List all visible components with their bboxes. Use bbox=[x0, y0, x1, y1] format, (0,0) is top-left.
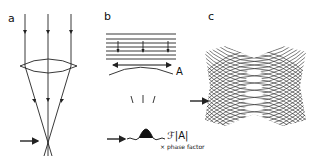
wavefront-arc bbox=[200, 123, 310, 149]
wavefront-arc bbox=[200, 32, 310, 58]
converging-rays bbox=[25, 66, 71, 156]
wavefront-arc bbox=[200, 111, 310, 137]
wavefront-arc bbox=[200, 141, 310, 164]
down-arrow-icon bbox=[46, 98, 50, 102]
wavefront-arc bbox=[200, 133, 310, 159]
incoming-rays bbox=[23, 14, 73, 66]
wavefront-arc bbox=[200, 126, 310, 152]
bright-fringe bbox=[246, 128, 262, 132]
bright-fringe bbox=[245, 120, 262, 124]
down-arrow-icon bbox=[69, 30, 73, 34]
ray-ticks bbox=[131, 95, 155, 103]
down-arrow-icon bbox=[60, 99, 64, 103]
down-arrow-icon bbox=[32, 99, 36, 103]
bright-fringe bbox=[245, 77, 262, 81]
down-arrow-icon bbox=[46, 30, 50, 34]
panel-b: b A ℱ bbox=[104, 10, 205, 151]
wavefront-arc bbox=[200, 122, 310, 148]
wavefronts bbox=[106, 34, 176, 59]
wavefront-arc bbox=[200, 25, 310, 51]
bright-fringe bbox=[244, 106, 264, 110]
bright-fringe bbox=[245, 113, 264, 117]
panel-a: a bbox=[8, 12, 77, 156]
wavefront-arc bbox=[200, 115, 310, 141]
bright-fringe bbox=[243, 99, 265, 103]
panel-b-label: b bbox=[104, 10, 111, 23]
wavefront-arc bbox=[200, 100, 310, 126]
wavefront-arc bbox=[200, 115, 310, 141]
panel-c: c bbox=[190, 10, 310, 164]
wavefront-arc bbox=[200, 118, 310, 144]
wavefront-arc bbox=[200, 151, 310, 164]
phase-factor-note: × phase factor bbox=[160, 143, 205, 151]
panel-a-label: a bbox=[8, 12, 15, 25]
curved-wavefront bbox=[109, 67, 173, 75]
interference-pattern bbox=[200, 25, 310, 164]
wavefront-arc bbox=[200, 28, 310, 54]
wavefront-arc bbox=[200, 35, 310, 61]
bright-fringe bbox=[246, 70, 262, 74]
wavefront-arc bbox=[200, 144, 310, 164]
wavefront-arc bbox=[200, 148, 310, 164]
bright-fringe bbox=[244, 92, 264, 96]
bright-fringe bbox=[245, 84, 264, 88]
wavefront-arc bbox=[200, 125, 310, 151]
wavefront-arc bbox=[200, 130, 310, 156]
figure: a b bbox=[0, 0, 317, 164]
down-arrow-icon bbox=[23, 30, 27, 34]
transform-label: ℱ|A| bbox=[167, 130, 188, 142]
panel-c-label: c bbox=[208, 10, 214, 23]
lens bbox=[20, 59, 77, 73]
wavefront-arc bbox=[200, 112, 310, 138]
wavefront-arc bbox=[200, 119, 310, 145]
wavefront-arc bbox=[200, 107, 310, 133]
wavefront-arc bbox=[200, 93, 310, 119]
wavefront-arc bbox=[200, 137, 310, 163]
aperture-label: A bbox=[176, 66, 183, 77]
